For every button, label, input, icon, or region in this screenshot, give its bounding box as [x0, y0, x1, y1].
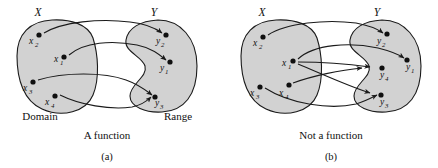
point-sub-y4: 4 [385, 75, 389, 82]
point-sub-x4: 4 [51, 102, 55, 109]
panel-b-range-set-label: Y [374, 6, 382, 18]
point-sub-x2: 2 [35, 41, 39, 48]
point-label-x1: x [281, 58, 287, 68]
point-x4 [286, 82, 291, 87]
point-sub-x2: 2 [259, 43, 263, 50]
point-label-x3: x [249, 88, 255, 98]
panel-a-caption: A function [84, 129, 131, 141]
function-mapping-figure: X Y x 2 x 1 x 3 x 4 y 2 [0, 0, 438, 168]
panel-a-id: (a) [101, 151, 113, 163]
point-sub-y1: 1 [165, 68, 168, 75]
point-label-x2: x [28, 36, 34, 46]
point-label-x1: x [53, 54, 59, 64]
point-x4 [52, 93, 57, 98]
panel-b-domain-set-label: X [257, 6, 266, 18]
panel-a-domain-blob [17, 20, 98, 113]
point-sub-y1: 1 [411, 67, 414, 74]
point-sub-x3: 3 [28, 88, 33, 95]
panel-a-range-edge-label: Range [164, 110, 192, 122]
point-x2 [260, 34, 265, 39]
point-sub-y3: 3 [159, 103, 164, 110]
point-label-x4: x [44, 97, 50, 107]
point-label-x4: x [278, 88, 284, 98]
point-sub-x1: 1 [60, 59, 63, 66]
point-sub-y3: 3 [384, 102, 389, 109]
point-y2 [163, 32, 168, 37]
point-label-x2: x [252, 38, 258, 48]
panel-a-domain-edge-label: Domain [22, 110, 58, 122]
panel-a-domain-set-label: X [33, 6, 42, 18]
point-sub-x1: 1 [288, 63, 291, 70]
point-sub-x4: 4 [285, 93, 289, 100]
point-y2 [384, 31, 389, 36]
panel-a-range-set-label: Y [151, 6, 159, 18]
point-sub-y2: 2 [161, 41, 165, 48]
panel-b: X Y x 2 x 1 x 3 x 4 [241, 6, 421, 163]
panel-b-id: (b) [325, 151, 338, 163]
panel-a: X Y x 2 x 1 x 3 x 4 y 2 [17, 6, 197, 163]
point-y1 [167, 59, 172, 64]
point-label-x3: x [22, 83, 28, 93]
point-x3 [30, 79, 35, 84]
point-sub-y2: 2 [382, 41, 386, 48]
point-x3 [257, 84, 262, 89]
panel-b-caption: Not a function [299, 129, 363, 141]
point-sub-x3: 3 [255, 93, 260, 100]
point-x2 [36, 32, 41, 37]
